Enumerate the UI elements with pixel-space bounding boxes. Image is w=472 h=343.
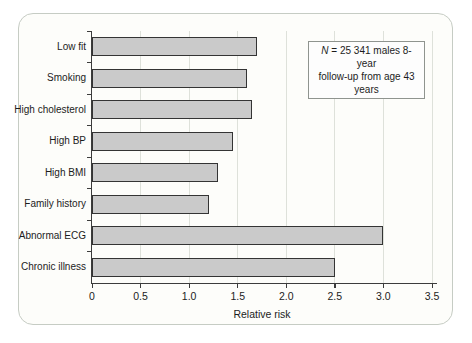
- x-axis-title: Relative risk: [92, 308, 432, 320]
- bar-abnormal-ecg: [92, 226, 383, 245]
- y-axis-tick: [87, 62, 92, 63]
- x-tick-label-3.0: 3.0: [366, 290, 400, 302]
- annotation-line1-rest: = 25 341 males 8-year: [329, 45, 412, 69]
- x-tick-label-3.5: 3.5: [415, 290, 449, 302]
- annotation-n-symbol: N: [321, 45, 328, 56]
- bar-high-cholesterol: [92, 100, 252, 119]
- screen: Relative risk Low fitSmokingHigh cholest…: [0, 0, 472, 343]
- x-axis-tick-0.5: [140, 283, 141, 288]
- category-label-high-bp: High BP: [0, 135, 86, 147]
- x-tick-label-2.0: 2.0: [269, 290, 303, 302]
- bar-family-history: [92, 195, 209, 214]
- x-tick-label-0: 0: [75, 290, 109, 302]
- bar-high-bmi: [92, 163, 218, 182]
- category-label-smoking: Smoking: [0, 72, 86, 84]
- annotation-line2: follow-up from age 43 years: [318, 71, 414, 95]
- bar-smoking: [92, 69, 247, 88]
- bar-low-fit: [92, 37, 257, 56]
- annotation-box: N = 25 341 males 8-year follow-up from a…: [308, 41, 425, 99]
- x-tick-label-0.5: 0.5: [124, 290, 158, 302]
- x-axis-tick-2.5: [334, 283, 335, 288]
- category-label-chronic-illness: Chronic illness: [0, 261, 86, 273]
- y-axis-tick: [87, 251, 92, 252]
- bar-chronic-illness: [92, 258, 335, 277]
- y-axis-tick: [87, 220, 92, 221]
- y-axis-tick: [87, 94, 92, 95]
- x-axis-tick-2.0: [286, 283, 287, 288]
- y-axis-tick: [87, 188, 92, 189]
- x-axis-line: [91, 283, 437, 284]
- y-axis-tick: [87, 125, 92, 126]
- category-label-low-fit: Low fit: [0, 41, 86, 53]
- x-axis-tick-3.0: [383, 283, 384, 288]
- annotation-line1: N = 25 341 males 8-year: [321, 45, 411, 69]
- x-tick-label-1.0: 1.0: [172, 290, 206, 302]
- x-tick-label-2.5: 2.5: [318, 290, 352, 302]
- category-label-abnormal-ecg: Abnormal ECG: [0, 230, 86, 242]
- bar-high-bp: [92, 132, 233, 151]
- x-axis-tick-3.5: [432, 283, 433, 288]
- category-label-high-cholesterol: High cholesterol: [0, 104, 86, 116]
- category-label-family-history: Family history: [0, 198, 86, 210]
- gridline-3.5: [432, 31, 433, 283]
- y-axis-tick: [87, 157, 92, 158]
- x-axis-tick-0: [92, 283, 93, 288]
- x-tick-label-1.5: 1.5: [221, 290, 255, 302]
- x-axis-tick-1.5: [237, 283, 238, 288]
- category-label-high-bmi: High BMI: [0, 167, 86, 179]
- x-axis-tick-1.0: [189, 283, 190, 288]
- y-axis-tick: [87, 31, 92, 32]
